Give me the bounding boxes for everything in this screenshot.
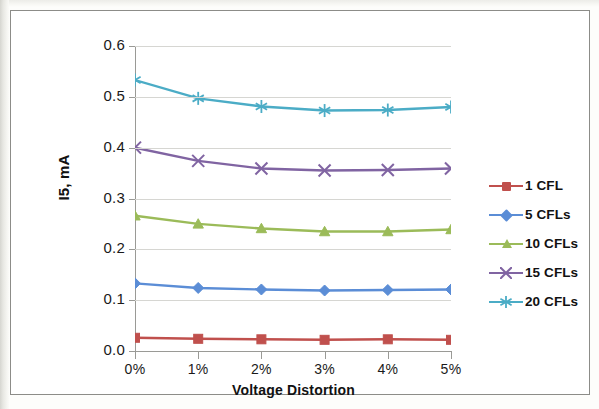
x-tick-mark — [198, 352, 199, 359]
legend-label: 15 CFLs — [523, 265, 578, 280]
y-axis-label: I5, mA — [55, 118, 72, 238]
data-marker — [446, 284, 452, 295]
data-marker — [194, 334, 203, 343]
legend-marker-diamond-icon — [500, 209, 513, 222]
data-marker — [257, 335, 266, 344]
series-line — [135, 80, 451, 111]
scanned-page: I5, mA 0.00.10.20.30.40.50.6 0%1%2%3%4%5… — [0, 0, 599, 409]
legend: 1 CFL5 CFLs10 CFLs15 CFLs20 CFLs — [489, 171, 589, 316]
y-tick-label: 0.6 — [85, 36, 125, 53]
y-tick-label: 0.0 — [85, 341, 125, 358]
legend-item-1-cfl[interactable]: 1 CFL — [489, 171, 589, 200]
x-tick-label: 1% — [168, 361, 228, 377]
data-marker — [256, 284, 267, 295]
data-marker — [319, 285, 330, 296]
legend-swatch — [489, 266, 523, 280]
legend-label: 20 CFLs — [523, 294, 578, 309]
y-tick-label: 0.4 — [85, 138, 125, 155]
legend-item-20-cfls[interactable]: 20 CFLs — [489, 287, 589, 316]
data-marker — [320, 335, 329, 344]
series-line — [135, 216, 451, 232]
legend-marker-x-icon — [500, 267, 509, 276]
data-marker — [383, 335, 392, 344]
legend-marker-square-icon — [502, 182, 511, 191]
legend-label: 1 CFL — [523, 178, 563, 193]
data-marker — [193, 282, 204, 293]
plot-area — [135, 46, 451, 351]
gridline — [135, 300, 451, 301]
legend-marker-glyph — [500, 296, 512, 308]
x-axis-label: Voltage Distortion — [135, 382, 452, 398]
data-marker — [135, 278, 141, 289]
x-tick-mark — [388, 352, 389, 359]
legend-label: 5 CFLs — [523, 207, 571, 222]
gridline — [135, 249, 451, 250]
y-tick-label: 0.5 — [85, 87, 125, 104]
x-tick-label: 4% — [358, 361, 418, 377]
x-tick-mark — [261, 352, 262, 359]
scan-edge-top — [0, 0, 599, 7]
legend-swatch — [489, 295, 523, 309]
series-line — [135, 338, 451, 340]
series-line — [135, 148, 451, 171]
scan-edge-left — [0, 0, 9, 409]
chart-frame: I5, mA 0.00.10.20.30.40.50.6 0%1%2%3%4%5… — [10, 10, 590, 395]
x-tick-label: 3% — [295, 361, 355, 377]
series-20-cfls — [135, 74, 451, 118]
legend-item-10-cfls[interactable]: 10 CFLs — [489, 229, 589, 258]
series-line — [135, 283, 451, 290]
series-1-cfl — [135, 333, 451, 344]
x-tick-mark — [135, 352, 136, 359]
legend-swatch — [489, 208, 523, 222]
legend-swatch — [489, 179, 523, 193]
legend-marker-asterisk-icon — [500, 296, 509, 305]
legend-swatch — [489, 237, 523, 251]
legend-label: 10 CFLs — [523, 236, 578, 251]
x-tick-mark — [325, 352, 326, 359]
y-tick-label: 0.1 — [85, 290, 125, 307]
data-marker — [447, 335, 452, 344]
x-tick-label: 2% — [231, 361, 291, 377]
legend-item-15-cfls[interactable]: 15 CFLs — [489, 258, 589, 287]
y-tick-label: 0.3 — [85, 189, 125, 206]
x-tick-label: 0% — [105, 361, 165, 377]
series-5-cfls — [135, 278, 451, 296]
x-axis-line — [135, 351, 452, 352]
gridline — [135, 199, 451, 200]
legend-marker-triangle-icon — [502, 239, 512, 248]
gridline — [135, 148, 451, 149]
gridline — [135, 46, 451, 47]
x-tick-mark — [451, 352, 452, 359]
data-marker — [382, 285, 393, 296]
x-tick-label: 5% — [421, 361, 481, 377]
legend-marker-glyph — [500, 267, 512, 279]
series-10-cfls — [135, 211, 451, 236]
data-marker — [135, 333, 140, 342]
legend-item-5-cfls[interactable]: 5 CFLs — [489, 200, 589, 229]
y-tick-label: 0.2 — [85, 239, 125, 256]
gridline — [135, 97, 451, 98]
